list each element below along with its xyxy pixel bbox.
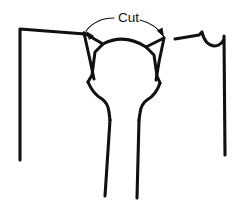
cut-label: Cut [118,10,139,25]
diagram-canvas: Cut [0,0,248,205]
right-leg-outline [137,120,139,198]
pattern-diagram: Cut [0,0,248,205]
